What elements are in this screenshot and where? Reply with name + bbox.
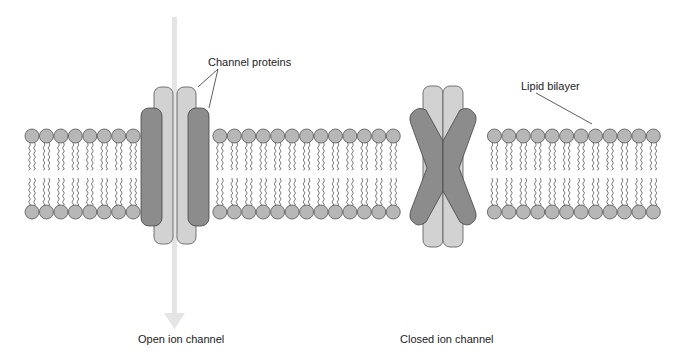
lipid-molecule: [126, 129, 140, 219]
lipid-molecule: [386, 129, 400, 219]
channel-proteins-leader-1: [198, 69, 218, 87]
channel-protein-dark-left: [141, 108, 162, 226]
leader-lines: [198, 69, 592, 124]
lipid-molecule: [242, 129, 256, 219]
lipid-molecule: [531, 129, 545, 219]
channel-protein-dark-right: [188, 108, 209, 226]
lipid-molecule: [487, 129, 501, 219]
lipid-molecule: [83, 129, 97, 219]
lipid-bilayer: [25, 129, 660, 219]
lipid-molecule: [574, 129, 588, 219]
closed-ion-channel: [410, 86, 476, 247]
lipid-molecule: [285, 129, 299, 219]
lipid-molecule: [545, 129, 559, 219]
lipid-molecule: [328, 129, 342, 219]
lipid-molecule: [502, 129, 516, 219]
lipid-molecule: [617, 129, 631, 219]
lipid-molecule: [68, 129, 82, 219]
lipid-molecule: [112, 129, 126, 219]
channel-proteins-leader-2: [209, 69, 218, 108]
lipid-molecule: [256, 129, 270, 219]
lipid-molecule: [271, 129, 285, 219]
lipid-molecule: [97, 129, 111, 219]
label-channel-proteins: Channel proteins: [208, 56, 291, 68]
lipid-bilayer-leader: [536, 93, 592, 124]
lipid-molecule: [227, 129, 241, 219]
ion-channel-diagram: [0, 0, 678, 356]
lipid-molecule: [213, 129, 227, 219]
lipid-molecule: [372, 129, 386, 219]
lipid-molecule: [589, 129, 603, 219]
lipid-molecule: [25, 129, 39, 219]
lipid-molecule: [357, 129, 371, 219]
lipid-molecule: [516, 129, 530, 219]
lipid-molecule: [300, 129, 314, 219]
label-closed-ion-channel: Closed ion channel: [400, 333, 494, 345]
label-open-ion-channel: Open ion channel: [138, 333, 224, 345]
lipid-molecule: [39, 129, 53, 219]
lipid-molecule: [314, 129, 328, 219]
lipid-molecule: [560, 129, 574, 219]
lipid-molecule: [603, 129, 617, 219]
lipid-molecule: [632, 129, 646, 219]
lipid-molecule: [343, 129, 357, 219]
lipid-molecule: [646, 129, 660, 219]
lipid-molecule: [54, 129, 68, 219]
label-lipid-bilayer: Lipid bilayer: [521, 80, 580, 92]
